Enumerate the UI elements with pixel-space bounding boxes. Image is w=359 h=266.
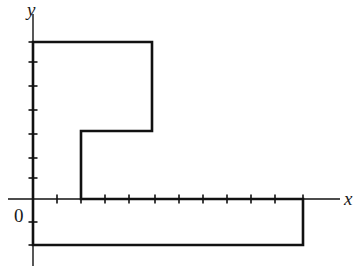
diagram-canvas: y x 0 [0, 0, 359, 266]
canvas-background [0, 0, 359, 266]
origin-label: 0 [14, 205, 24, 226]
y-axis-label: y [25, 0, 36, 20]
x-axis-label: x [343, 188, 353, 209]
coordinate-plane-figure: y x 0 [0, 0, 359, 266]
